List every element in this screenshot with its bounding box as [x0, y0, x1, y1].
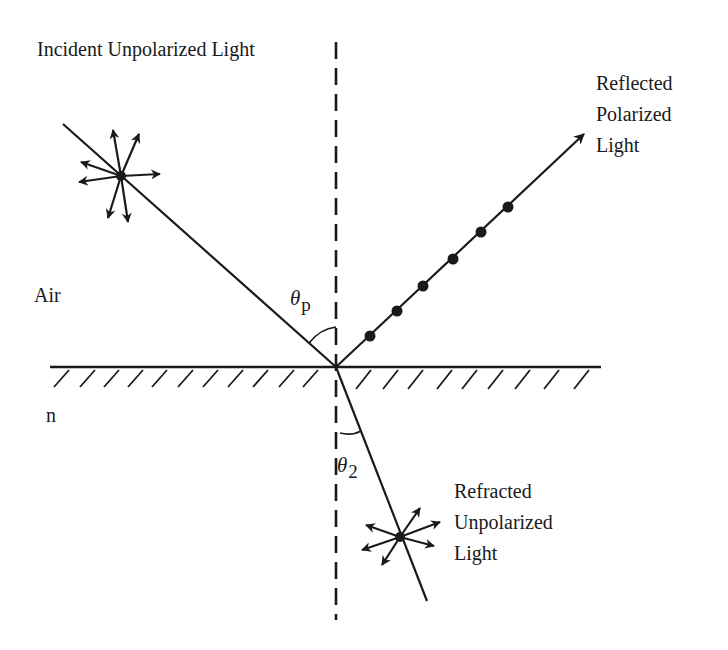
refracted-light-label: Refracted Unpolarized Light [454, 476, 553, 569]
theta-p-label: θp [290, 283, 311, 314]
incident-light-label: Incident Unpolarized Light [37, 34, 255, 64]
incident-polarization-star-icon [79, 130, 160, 222]
air-medium-label: Air [34, 280, 61, 310]
theta-2-subscript: 2 [348, 461, 358, 482]
theta-2-symbol: θ [337, 453, 347, 477]
polarization-dot [365, 331, 376, 342]
interface-hatching [54, 370, 589, 389]
reflected-light-label: Reflected Polarized Light [596, 68, 673, 161]
polarization-dot [392, 306, 403, 317]
incident-ray [63, 124, 336, 367]
refracted-ray [336, 367, 427, 601]
theta-p-subscript: p [301, 294, 311, 315]
theta-p-symbol: θ [290, 286, 300, 310]
n-medium-label: n [46, 400, 56, 430]
brewster-angle-diagram: Incident Unpolarized Light Reflected Pol… [0, 0, 728, 650]
refracted-polarization-star-icon [362, 508, 440, 565]
polarization-dot [448, 254, 459, 265]
polarization-dot [418, 281, 429, 292]
polarization-dot [476, 227, 487, 238]
theta-p-arc [309, 327, 336, 343]
polarization-dot [503, 202, 514, 213]
theta-2-arc [340, 431, 361, 434]
theta-2-label: θ2 [337, 450, 358, 481]
